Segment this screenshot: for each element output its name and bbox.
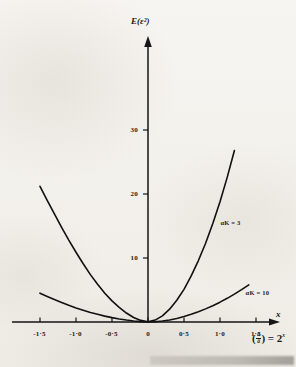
x-axis-title-text: x <box>276 309 281 319</box>
x-tick-label-2: -0·5 <box>105 331 117 338</box>
formula-close-paren-equals-two: ) = 2 <box>261 332 282 344</box>
x-axis-arrowhead <box>269 318 280 325</box>
axes-group <box>12 36 280 326</box>
y-tick-label-2: 30 <box>131 127 138 134</box>
figure-page: E(ε²) x (aā) = 2x -1·5-1·0-0·500·51·01·5… <box>0 0 296 367</box>
x-axis-title: x <box>276 310 281 319</box>
curve-series-1 <box>40 285 249 322</box>
data-curves-group <box>40 150 249 321</box>
x-tick-label-1: -1·0 <box>69 331 81 338</box>
y-tick-label-0: 10 <box>131 255 138 262</box>
scan-edge-smudge <box>150 356 294 365</box>
curve-label-0: αK = 3 <box>220 220 240 227</box>
x-tick-label-0: -1·5 <box>33 331 45 338</box>
y-tick-label-1: 20 <box>131 191 138 198</box>
x-tick-label-4: 0·5 <box>179 331 189 338</box>
y-axis-title: E(ε²) <box>131 17 149 26</box>
formula-exponent: x <box>282 332 285 338</box>
chart-plot-area <box>0 0 296 367</box>
curve-label-1: αK = 10 <box>246 290 270 297</box>
x-tick-label-3: 0 <box>146 331 150 338</box>
y-axis-arrowhead <box>144 36 152 47</box>
curve-series-0 <box>40 150 234 321</box>
y-axis-title-text: E(ε²) <box>131 16 149 26</box>
x-tick-label-5: 1·0 <box>215 331 225 338</box>
x-tick-label-6: 1·5 <box>251 331 261 338</box>
